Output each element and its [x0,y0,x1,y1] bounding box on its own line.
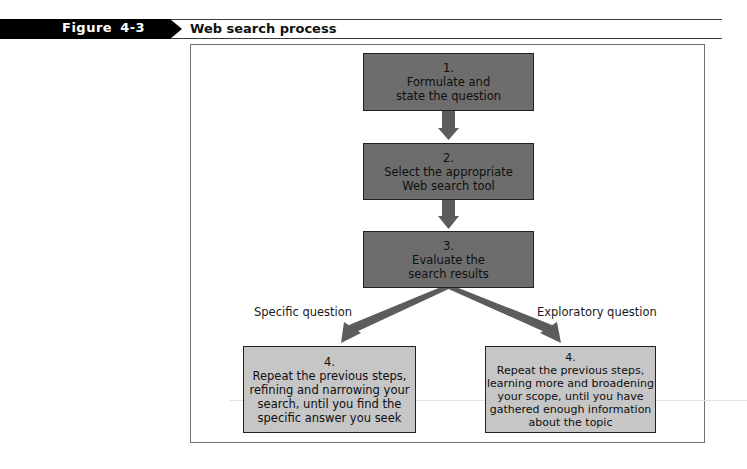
diagonal-arrow-left-icon [341,287,453,343]
down-arrow-icon [438,111,459,140]
down-arrow-icon [438,200,459,229]
step-text: specific answer you seek [244,411,415,425]
step-text: search results [364,267,533,281]
step-text: about the topic [486,416,655,429]
step-text: Evaluate the [364,253,533,267]
step-number: 4. [244,355,415,369]
step-text: Web search tool [364,179,533,193]
step-4-specific-box: 4. Repeat the previous steps, refining a… [243,346,416,433]
step-3-box: 3. Evaluate the search results [363,231,534,288]
step-text: refining and narrowing your [244,383,415,397]
step-number: 4. [486,351,655,364]
branch-label-specific: Specific question [254,305,352,319]
step-text: Repeat the previous steps, [486,364,655,377]
step-text: your scope, until you have [486,390,655,403]
step-4-exploratory-box: 4. Repeat the previous steps, learning m… [485,346,656,433]
step-text: Formulate and [364,75,533,89]
step-text: learning more and broadening [486,377,655,390]
step-1-box: 1. Formulate and state the question [363,53,534,111]
step-text: Select the appropriate [364,165,533,179]
step-text: state the question [364,89,533,103]
step-text: Repeat the previous steps, [244,369,415,383]
step-number: 1. [364,61,533,75]
step-2-box: 2. Select the appropriate Web search too… [363,143,534,200]
step-number: 2. [364,151,533,165]
step-text: gathered enough information [486,403,655,416]
step-text: search, until you find the [244,397,415,411]
step-number: 3. [364,239,533,253]
branch-label-exploratory: Exploratory question [537,305,657,319]
